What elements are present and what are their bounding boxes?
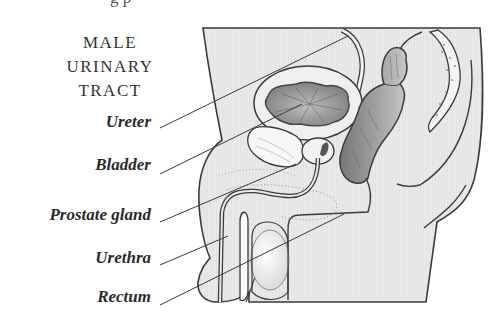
- anatomy-illustration: [0, 0, 497, 326]
- testis: [251, 230, 289, 290]
- bladder: [266, 82, 349, 126]
